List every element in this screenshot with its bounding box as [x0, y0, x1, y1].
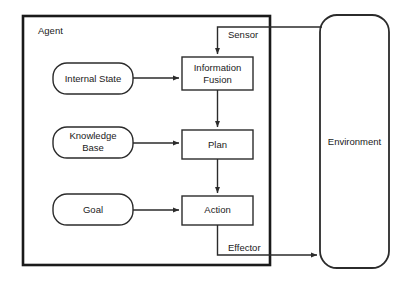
- action-label: Action: [204, 204, 230, 215]
- internal-state-label: Internal State: [65, 73, 122, 84]
- knowledge-base-label-line1: Knowledge: [69, 130, 116, 141]
- plan-label: Plan: [208, 139, 227, 150]
- diagram-canvas: Agent Environment Internal State Knowled…: [0, 0, 408, 286]
- knowledge-base-label-line2: Base: [82, 142, 104, 153]
- agent-architecture-diagram: Agent Environment Internal State Knowled…: [0, 0, 408, 286]
- agent-container-label: Agent: [38, 25, 63, 36]
- sensor-label: Sensor: [228, 29, 258, 40]
- environment-label: Environment: [328, 136, 382, 147]
- goal-label: Goal: [83, 204, 103, 215]
- information-fusion-label-line2: Fusion: [203, 74, 232, 85]
- information-fusion-label-line1: Information: [194, 62, 242, 73]
- effector-label: Effector: [228, 242, 261, 253]
